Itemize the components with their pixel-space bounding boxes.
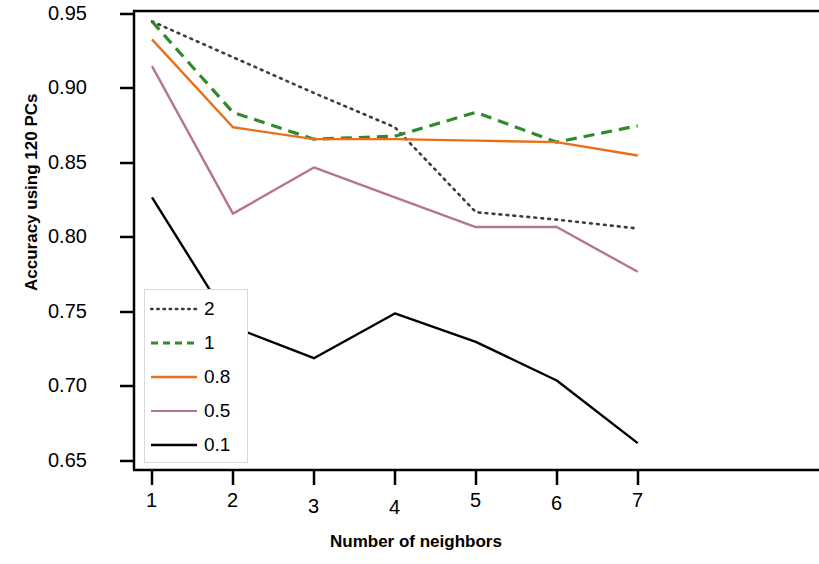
legend-item-0-5[interactable]: 0.5	[145, 394, 249, 428]
legend-label: 0.5	[204, 400, 230, 422]
legend-label: 0.1	[204, 434, 230, 456]
y-tick-label: 0.65	[48, 449, 87, 472]
legend-key-solid-orange-icon	[150, 370, 198, 384]
x-tick-label: 6	[551, 492, 562, 515]
x-tick-label: 1	[146, 489, 157, 512]
y-tick-label: 0.70	[48, 374, 87, 397]
plot-area	[0, 0, 819, 564]
legend-key-solid-black-icon	[150, 438, 198, 452]
series-line-0-5	[152, 66, 638, 272]
legend-label: 0.8	[204, 366, 230, 388]
y-axis-ticks	[120, 14, 133, 461]
chart-figure: 0.95 0.90 0.85 0.80 0.75 0.70 0.65 1 2 3…	[0, 0, 819, 564]
x-tick-label: 4	[389, 496, 400, 519]
x-axis-title: Number of neighbors	[330, 532, 502, 552]
legend-item-1[interactable]: 1	[145, 326, 249, 360]
legend-item-0-8[interactable]: 0.8	[145, 360, 249, 394]
legend-label: 1	[204, 332, 215, 354]
y-tick-label: 0.75	[48, 300, 87, 323]
legend-item-2[interactable]: 2	[145, 292, 249, 326]
x-tick-label: 7	[632, 489, 643, 512]
y-tick-label: 0.90	[48, 76, 87, 99]
x-axis-ticks	[152, 470, 638, 485]
y-axis-title: Accuracy using 120 PCs	[22, 94, 42, 291]
legend: 2 1 0.8 0.5 0.1	[144, 289, 248, 463]
legend-item-0-1[interactable]: 0.1	[145, 428, 249, 462]
y-tick-label: 0.85	[48, 151, 87, 174]
y-tick-label: 0.95	[48, 2, 87, 25]
legend-key-dotted-icon	[150, 302, 198, 316]
x-tick-label: 2	[227, 489, 238, 512]
x-tick-label: 3	[308, 495, 319, 518]
series-line-0-8	[152, 39, 638, 155]
x-tick-label: 5	[470, 489, 481, 512]
legend-key-solid-pink-icon	[150, 404, 198, 418]
series-line-1	[152, 21, 638, 142]
legend-key-dashed-icon	[150, 336, 198, 350]
y-tick-label: 0.80	[48, 225, 87, 248]
legend-label: 2	[204, 298, 215, 320]
